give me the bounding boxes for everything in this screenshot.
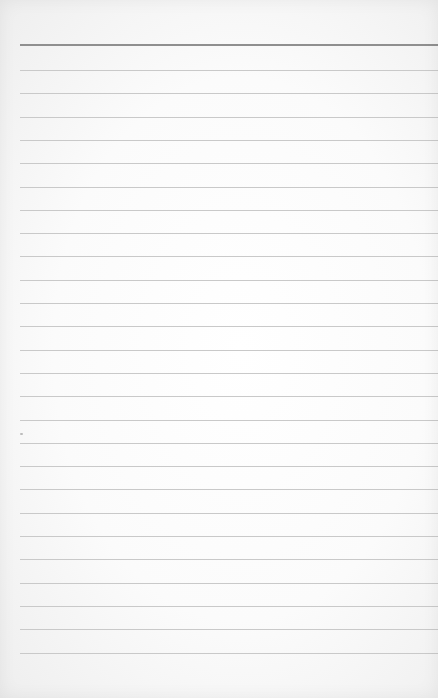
ruled-line	[20, 350, 438, 351]
ruled-line	[20, 559, 438, 560]
ruled-line	[20, 396, 438, 397]
faint-pencil-mark	[20, 433, 23, 435]
ruled-line	[20, 513, 438, 514]
ruled-line	[20, 140, 438, 141]
ruled-line	[20, 117, 438, 118]
ruled-line	[20, 629, 438, 630]
ruled-line	[20, 466, 438, 467]
ruled-line	[20, 489, 438, 490]
lined-paper-sheet	[0, 0, 438, 698]
ruled-line	[20, 233, 438, 234]
ruled-line	[20, 303, 438, 304]
header-rule	[20, 44, 438, 46]
ruled-line	[20, 326, 438, 327]
ruled-line	[20, 280, 438, 281]
ruled-line	[20, 93, 438, 94]
ruled-line	[20, 163, 438, 164]
ruled-line	[20, 653, 438, 654]
ruled-line	[20, 373, 438, 374]
ruled-line	[20, 187, 438, 188]
ruled-line	[20, 420, 438, 421]
ruled-line	[20, 70, 438, 71]
ruled-line	[20, 256, 438, 257]
ruled-line	[20, 210, 438, 211]
ruled-line	[20, 443, 438, 444]
ruled-line	[20, 606, 438, 607]
ruled-line	[20, 536, 438, 537]
ruled-line	[20, 583, 438, 584]
